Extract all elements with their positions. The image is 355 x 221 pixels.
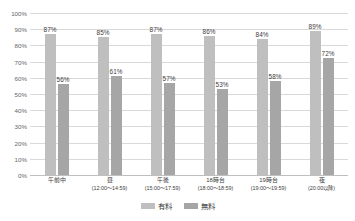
y-axis-tick-label: 10% <box>0 155 27 162</box>
bar-value-label: 85% <box>97 29 110 36</box>
y-axis-tick-label: 0% <box>0 172 27 179</box>
bar-group: 87%56% <box>30 13 83 175</box>
legend-swatch-paid-icon <box>141 203 155 209</box>
chart-legend: 有料 無料 <box>0 200 355 211</box>
bar-value-label: 56% <box>57 76 70 83</box>
bar-value-label: 58% <box>269 73 282 80</box>
bar-chart: 100%90%80%70%60%50%40%30%20%10%0% 87%56%… <box>0 0 355 221</box>
y-axis-tick-label: 80% <box>0 42 27 49</box>
bar-paid[interactable]: 89% <box>310 31 321 175</box>
legend-label-paid: 有料 <box>158 200 172 211</box>
plot-area: 87%56%85%61%87%57%86%53%84%58%89%72% <box>30 13 348 175</box>
bar-value-label: 87% <box>150 26 163 33</box>
bar-paid[interactable]: 85% <box>98 37 109 175</box>
y-axis-tick-label: 70% <box>0 58 27 65</box>
bar-free[interactable]: 57% <box>164 83 175 175</box>
bar-group: 87%57% <box>136 13 189 175</box>
bar-group: 84%58% <box>242 13 295 175</box>
bar-paid[interactable]: 87% <box>45 34 56 175</box>
bar-paid[interactable]: 84% <box>257 39 268 175</box>
bar-free[interactable]: 56% <box>58 84 69 175</box>
bar-value-label: 61% <box>110 68 123 75</box>
x-axis-category-label: 夜(20:00以降) <box>289 176 354 192</box>
bar-value-label: 53% <box>216 81 229 88</box>
bar-free[interactable]: 58% <box>270 81 281 175</box>
bar-paid[interactable]: 86% <box>204 36 215 175</box>
bar-value-label: 89% <box>309 23 322 30</box>
y-axis-tick-label: 20% <box>0 139 27 146</box>
bar-group: 85%61% <box>83 13 136 175</box>
y-axis-tick-label: 40% <box>0 107 27 114</box>
bar-free[interactable]: 53% <box>217 89 228 175</box>
bar-value-label: 87% <box>44 26 57 33</box>
bar-group: 89%72% <box>295 13 348 175</box>
y-axis-tick-label: 90% <box>0 26 27 33</box>
bar-free[interactable]: 61% <box>111 76 122 175</box>
y-axis-tick-label: 30% <box>0 123 27 130</box>
y-axis-labels: 100%90%80%70%60%50%40%30%20%10%0% <box>0 13 27 175</box>
bar-value-label: 72% <box>322 50 335 57</box>
y-axis-tick-label: 60% <box>0 74 27 81</box>
bar-paid[interactable]: 87% <box>151 34 162 175</box>
bar-value-label: 84% <box>256 31 269 38</box>
legend-swatch-free-icon <box>184 203 198 209</box>
bar-group: 86%53% <box>189 13 242 175</box>
y-axis-tick-label: 50% <box>0 91 27 98</box>
category-label-line1: 夜 <box>289 176 354 184</box>
legend-item-paid[interactable]: 有料 <box>141 200 172 211</box>
legend-label-free: 無料 <box>201 200 215 211</box>
x-axis-category-labels: 午前中昼(12:00〜14:59)午後(15:00〜17:59)18時台(18:… <box>30 176 348 198</box>
bar-value-label: 57% <box>163 75 176 82</box>
y-axis-tick-label: 100% <box>0 10 27 17</box>
bar-value-label: 86% <box>203 28 216 35</box>
legend-item-free[interactable]: 無料 <box>184 200 215 211</box>
category-label-line2: (20:00以降) <box>289 184 354 192</box>
bar-free[interactable]: 72% <box>323 58 334 175</box>
